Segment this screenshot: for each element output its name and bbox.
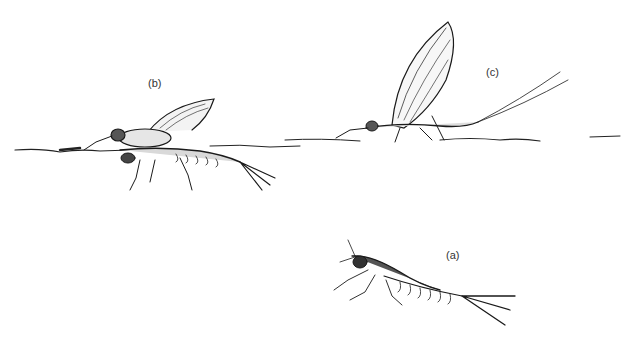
mayfly-drawing	[0, 0, 630, 346]
emerging-mayfly	[84, 99, 275, 190]
illustration-canvas: (b) (c) (a)	[0, 0, 630, 346]
adult-mayfly	[336, 22, 568, 142]
label-c: (c)	[486, 66, 499, 78]
nymph	[334, 240, 515, 325]
label-a: (a)	[446, 249, 459, 261]
label-b: (b)	[148, 77, 161, 89]
